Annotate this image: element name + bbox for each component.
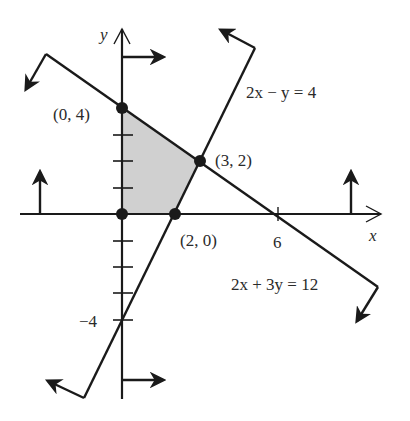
tick-label-neg4: −4 <box>79 312 98 331</box>
line-2x-plus-3y-eq-12 <box>26 54 378 321</box>
vertex-2-0 <box>169 208 181 220</box>
y-axis-label: y <box>98 25 108 44</box>
tick-label-6: 6 <box>273 233 282 252</box>
linear-inequality-graph: y x 6 −4 (0, 4) (3, 2) (2, 0) 2x − y = 4… <box>0 0 410 421</box>
x-axis-label: x <box>368 226 377 245</box>
vertex-label-3-2: (3, 2) <box>215 151 252 170</box>
line-b-arrow-bottom <box>48 381 84 398</box>
line-a-arrow-bottom <box>357 287 378 321</box>
line-a-arrow-top <box>26 54 46 89</box>
equation-label-2x-minus-y: 2x − y = 4 <box>246 83 317 102</box>
vertex-0-4 <box>116 102 128 114</box>
feasible-region <box>122 108 200 214</box>
vertex-0-0 <box>116 208 128 220</box>
equation-label-2x-plus-3y: 2x + 3y = 12 <box>231 275 318 294</box>
x-axis <box>20 206 381 222</box>
vertex-label-0-4: (0, 4) <box>53 105 90 124</box>
vertex-3-2 <box>194 155 206 167</box>
vertex-label-2-0: (2, 0) <box>180 231 217 250</box>
line-b-arrow-top <box>221 30 255 48</box>
